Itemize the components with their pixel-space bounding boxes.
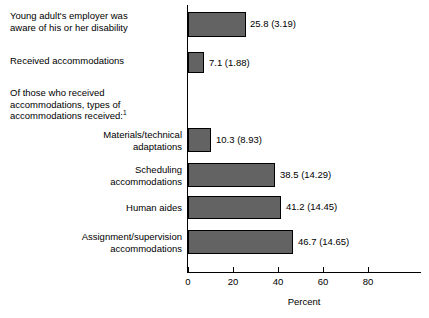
- bar-human-aides: [188, 196, 281, 219]
- x-tick-40: [278, 267, 279, 273]
- bar-value-human-aides: 41.2 (14.45): [286, 201, 337, 212]
- bar-value-materials-technical-adaptations: 10.3 (8.93): [216, 134, 262, 145]
- x-tick-label-60: 60: [308, 276, 338, 287]
- x-tick-label-80: 80: [353, 276, 383, 287]
- x-axis-title: Percent: [187, 296, 421, 307]
- bar-value-received-accommodations: 7.1 (1.88): [209, 57, 250, 68]
- x-tick-0: [188, 267, 189, 273]
- x-tick-label-40: 40: [263, 276, 293, 287]
- bar-value-assignment-supervision-accommodations: 46.7 (14.65): [298, 236, 349, 247]
- bar-assignment-supervision-accommodations: [188, 230, 293, 254]
- x-axis-line: [187, 272, 421, 273]
- x-tick-80: [368, 267, 369, 273]
- bar-employer-aware: [188, 12, 246, 37]
- bar-materials-technical-adaptations: [188, 128, 211, 152]
- x-tick-label-0: 0: [173, 276, 203, 287]
- bar-received-accommodations: [188, 52, 204, 73]
- x-tick-60: [323, 267, 324, 273]
- bar-value-employer-aware: 25.8 (3.19): [250, 18, 296, 29]
- bar-chart: Young adult's employer was aware of his …: [0, 0, 429, 318]
- bar-value-scheduling-accommodations: 38.5 (14.29): [280, 169, 331, 180]
- x-tick-label-20: 20: [218, 276, 248, 287]
- plot-area: 0 20 40 60 80 Percent 25.8 (3.19) 7.1 (1…: [0, 0, 429, 318]
- bar-scheduling-accommodations: [188, 163, 275, 187]
- x-tick-20: [233, 267, 234, 273]
